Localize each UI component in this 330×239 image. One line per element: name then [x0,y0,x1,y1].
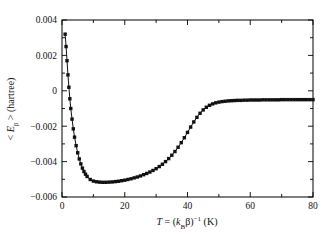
data-point [72,127,75,130]
y-tick-label: 0 [52,86,57,96]
chart-figure: 020406080 −0.006−0.004−0.00200.0020.004 … [0,0,330,239]
data-point [208,104,211,107]
data-point [286,98,289,101]
data-point [74,144,77,147]
x-tick-label: 80 [308,201,318,211]
data-point [289,98,292,101]
data-point [308,98,311,101]
data-point [129,177,132,180]
data-point [299,98,302,101]
data-point [261,98,264,101]
data-point [139,174,142,177]
data-point [95,180,98,183]
data-point [223,100,226,103]
x-tick-label: 20 [120,201,130,211]
data-point [120,179,123,182]
data-point [277,98,280,101]
y-tick-label: 0.004 [36,15,58,25]
y-axis-label: < Eβ > (hartree) [5,78,20,141]
data-point [158,165,161,168]
data-point [70,117,73,120]
data-point [92,179,95,182]
data-point [104,181,107,184]
plot-frame [62,20,313,197]
data-point [78,157,81,160]
data-point [63,32,66,35]
axes-border [62,20,313,197]
data-point [173,150,176,153]
data-point [311,98,314,101]
data-point [69,107,72,110]
data-point [280,98,283,101]
data-point [64,45,67,48]
data-point [305,98,308,101]
data-point [258,98,261,101]
data-point [230,99,233,102]
data-point [114,180,117,183]
data-point [242,98,245,101]
data-point [76,151,79,154]
data-point [198,112,201,115]
data-point [192,120,195,123]
series-line [65,34,313,182]
data-point [117,180,120,183]
data-point [233,99,236,102]
data-point [65,59,68,62]
x-axis-tick-labels: 020406080 [60,201,318,211]
data-point [68,97,71,100]
data-point [180,141,183,144]
data-point [239,99,242,102]
data-point [136,175,139,178]
data-point [255,98,258,101]
data-point [267,98,270,101]
data-point [292,98,295,101]
data-point [132,176,135,179]
x-axis-label: T = (kBβ)−1 (K) [157,215,218,231]
x-axis-ticks [62,20,313,197]
data-point [302,98,305,101]
data-point [148,170,151,173]
data-point [111,180,114,183]
y-axis-tick-labels: −0.006−0.004−0.00200.0020.004 [30,15,57,202]
svg-text:< Eβ > (hartree): < Eβ > (hartree) [5,78,20,141]
data-point [66,73,69,76]
data-point [81,166,84,169]
data-point [145,172,148,175]
y-tick-label: 0.002 [36,51,58,61]
data-point [274,98,277,101]
x-tick-label: 0 [60,201,65,211]
data-point [186,131,189,134]
x-tick-label: 60 [246,201,256,211]
data-point [154,167,157,170]
data-point [296,98,299,101]
data-point [142,173,145,176]
data-point [79,162,82,165]
data-point [98,180,101,183]
data-point [264,98,267,101]
data-point [73,135,76,138]
data-point [227,99,230,102]
data-point [283,98,286,101]
chart-svg: 020406080 −0.006−0.004−0.00200.0020.004 … [0,0,330,239]
data-series-group [63,32,314,184]
data-point [214,101,217,104]
data-point [126,178,129,181]
svg-text:T = (kBβ)−1 (K): T = (kBβ)−1 (K) [157,215,218,231]
data-point [123,178,126,181]
data-point [271,98,274,101]
data-point [67,86,70,89]
data-point [217,100,220,103]
data-point [195,116,198,119]
data-point [249,98,252,101]
data-point [164,160,167,163]
data-point [252,98,255,101]
data-point [201,108,204,111]
x-tick-label: 40 [183,201,193,211]
data-point [236,99,239,102]
data-point [245,98,248,101]
data-point [170,154,173,157]
series-markers [63,32,314,184]
data-point [189,125,192,128]
y-axis-ticks [62,20,313,197]
data-point [211,102,214,105]
